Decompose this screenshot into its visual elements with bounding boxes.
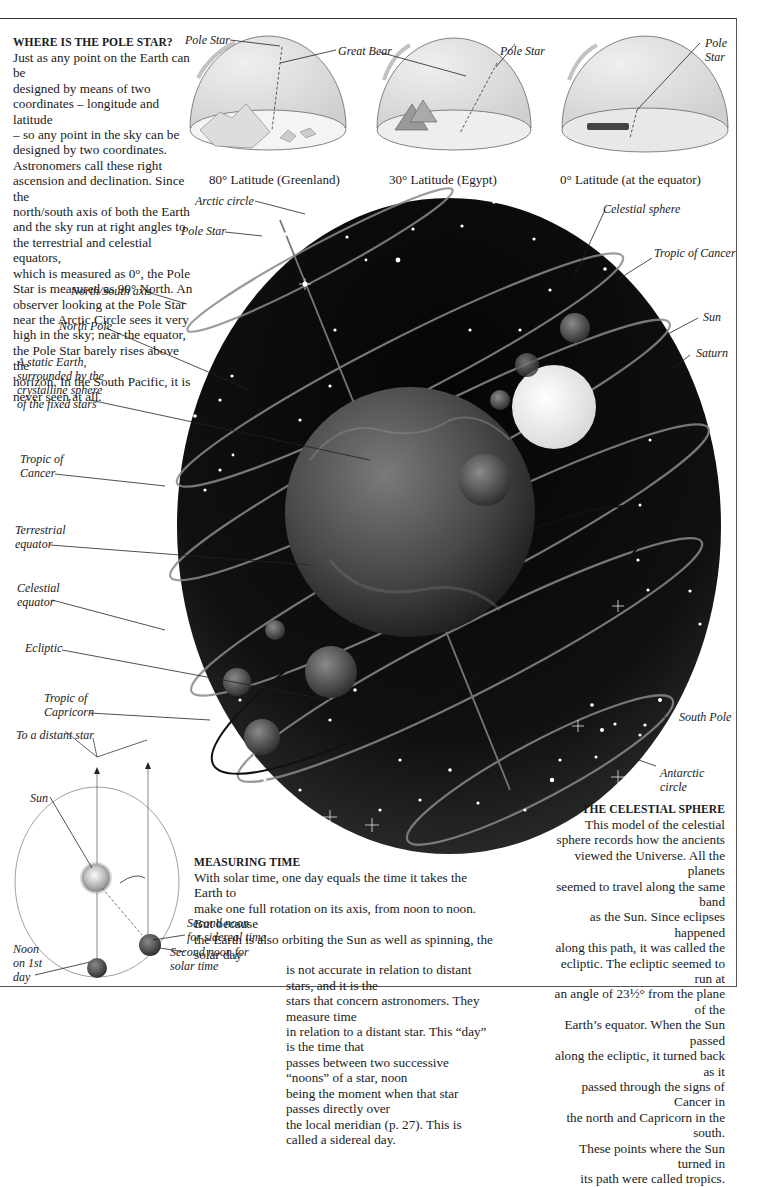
measuring-time-diagram xyxy=(15,731,185,978)
dome-greenland xyxy=(190,36,346,150)
dome1-caption: 80° Latitude (Greenland) xyxy=(209,172,340,188)
celestial-sphere-heading: THE CELESTIAL SPHERE xyxy=(545,802,725,817)
dome2-caption: 30° Latitude (Egypt) xyxy=(389,172,497,188)
celestial-sphere-illustration xyxy=(128,175,724,865)
label-static-earth: A static Earth, surrounded by the crysta… xyxy=(17,355,104,411)
label-north-pole: North Pole xyxy=(59,319,112,333)
dome3-pole-label: Pole xyxy=(705,36,727,50)
label-tropic-of-cancer-left: Tropic of Cancer xyxy=(20,452,63,480)
label-sun: Sun xyxy=(703,310,721,324)
dome3-star-label: Star xyxy=(705,50,725,64)
label-ecliptic: Ecliptic xyxy=(25,641,62,655)
label-antarctic-circle: Antarctic circle xyxy=(660,766,704,794)
measuring-time-body: With solar time, one day equals the time… xyxy=(194,870,494,1147)
dome-equator xyxy=(562,36,728,152)
sun-sphere xyxy=(512,365,596,449)
label-terrestrial-equator: Terrestrial equator xyxy=(15,523,65,551)
pole-star-article: WHERE IS THE POLE STAR? Just as any poin… xyxy=(13,35,193,404)
label-tropic-of-capricorn: Tropic of Capricorn xyxy=(44,691,94,719)
label-celestial-equator: Celestial equator xyxy=(17,581,60,609)
dome1-pole-star-label: Pole Star xyxy=(185,33,230,47)
measuring-time-heading: MEASURING TIME xyxy=(194,855,494,870)
label-noon-first-day: Noon on 1st day xyxy=(13,942,42,984)
dome2-pole-star-label: Pole Star xyxy=(500,44,545,58)
celestial-sphere-body: This model of the celestial sphere recor… xyxy=(545,817,725,1187)
dome3-caption: 0° Latitude (at the equator) xyxy=(560,172,701,188)
pole-star-heading: WHERE IS THE POLE STAR? xyxy=(13,35,193,50)
earth-globe xyxy=(285,387,535,637)
label-pole-star: Pole Star xyxy=(181,224,226,238)
label-timing-sun: Sun xyxy=(30,791,48,805)
dome1-great-bear-label: Great Bear xyxy=(338,44,392,58)
label-south-pole: South Pole xyxy=(679,710,731,724)
label-north-south-axis: North/South axis xyxy=(71,284,152,298)
measuring-time-article: MEASURING TIME With solar time, one day … xyxy=(194,855,494,1147)
label-arctic-circle: Arctic circle xyxy=(195,194,254,208)
pole-star-body: Just as any point on the Earth can be de… xyxy=(13,50,193,404)
label-tropic-of-cancer-right: Tropic of Cancer xyxy=(654,246,736,260)
label-celestial-sphere: Celestial sphere xyxy=(603,202,680,216)
label-distant-star: To a distant star xyxy=(16,728,94,742)
celestial-sphere-article: THE CELESTIAL SPHERE This model of the c… xyxy=(545,802,725,1187)
label-saturn: Saturn xyxy=(696,346,728,360)
